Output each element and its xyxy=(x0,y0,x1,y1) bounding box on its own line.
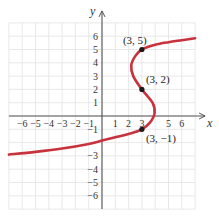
y-tick-label: −3 xyxy=(87,150,98,161)
y-tick-label: −5 xyxy=(87,177,98,188)
y-tick-label: 5 xyxy=(93,44,98,55)
y-tick-label: 6 xyxy=(93,31,98,42)
x-tick-label: −6 xyxy=(17,118,28,129)
data-point-marker xyxy=(139,47,144,52)
y-tick-label: −4 xyxy=(87,164,98,175)
data-point-marker xyxy=(139,127,144,132)
x-tick-label: −3 xyxy=(57,118,68,129)
y-tick-label: −6 xyxy=(87,190,98,201)
x-tick-label: 5 xyxy=(166,118,171,129)
point-label: (3, −1) xyxy=(146,132,176,145)
y-tick-label: 3 xyxy=(93,71,98,82)
y-tick-label: 1 xyxy=(93,97,98,108)
x-tick-label: −4 xyxy=(43,118,54,129)
x-axis-label: x xyxy=(206,116,213,130)
graph-plot: −6−5−4−3−2−112356654321−1−3−4−5−6 (3, 5)… xyxy=(0,0,219,219)
y-tick-label: 4 xyxy=(93,57,98,68)
point-label: (3, 5) xyxy=(123,34,147,47)
x-tick-label: 6 xyxy=(179,118,184,129)
data-point-marker xyxy=(139,87,144,92)
point-label: (3, 2) xyxy=(146,73,170,86)
y-axis-label: y xyxy=(89,4,96,18)
x-tick-label: −2 xyxy=(70,118,81,129)
y-tick-label: −1 xyxy=(87,124,98,135)
x-tick-label: 2 xyxy=(126,118,131,129)
y-tick-label: 2 xyxy=(93,84,98,95)
x-tick-label: 1 xyxy=(113,118,118,129)
x-tick-label: −5 xyxy=(30,118,41,129)
